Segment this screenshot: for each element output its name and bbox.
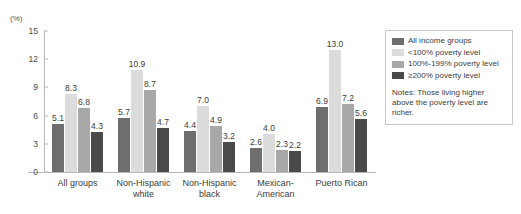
bar-value-label: 13.0 — [327, 40, 344, 49]
bar-value-label: 2.6 — [250, 138, 262, 147]
bar — [342, 104, 354, 172]
bar — [144, 90, 156, 172]
bar-column: 5.1 — [52, 31, 64, 172]
bar-column: 7.0 — [197, 31, 209, 172]
legend-label: All income groups — [408, 36, 472, 46]
bar — [197, 106, 209, 172]
bar-value-label: 6.8 — [78, 98, 90, 107]
legend-note: Notes: Those living higher above the pov… — [392, 88, 506, 118]
bar — [316, 107, 328, 172]
bar-value-label: 2.3 — [276, 140, 288, 149]
bar-value-label: 10.9 — [129, 60, 146, 69]
y-tick-label: 12 — [0, 54, 44, 64]
bar-group: 2.64.02.32.2 — [250, 31, 302, 172]
plot-area: 5.18.36.84.35.710.98.74.74.47.04.93.22.6… — [44, 31, 374, 172]
bar-value-label: 4.7 — [157, 118, 169, 127]
legend-items: All income groups<100% poverty level100%… — [392, 36, 506, 81]
legend-item: 100%-199% poverty level — [392, 59, 506, 69]
y-tick-label: 15 — [0, 26, 44, 36]
bar-group: 4.47.04.93.2 — [184, 31, 236, 172]
bar-column: 5.7 — [118, 31, 130, 172]
bar-value-label: 2.2 — [289, 141, 301, 150]
bar-column: 3.2 — [223, 31, 235, 172]
legend-swatch — [392, 72, 404, 79]
legend-item: ≥200% poverty level — [392, 71, 506, 81]
bar-value-label: 5.6 — [355, 109, 367, 118]
bar — [276, 150, 288, 172]
y-tick-label: 3 — [0, 139, 44, 149]
bar-column: 10.9 — [131, 31, 143, 172]
legend-swatch — [392, 49, 404, 56]
y-tick-label: 6 — [0, 111, 44, 121]
bar-value-label: 8.3 — [65, 84, 77, 93]
bar — [52, 124, 64, 172]
bar-value-label: 7.2 — [342, 94, 354, 103]
bar-column: 5.6 — [355, 31, 367, 172]
bar-column: 6.8 — [78, 31, 90, 172]
bar-column: 6.9 — [316, 31, 328, 172]
bar — [65, 94, 77, 172]
bar — [78, 108, 90, 172]
bar — [157, 128, 169, 172]
bar — [131, 70, 143, 172]
bar-column: 4.3 — [91, 31, 103, 172]
bar-value-label: 5.7 — [118, 108, 130, 117]
bar-value-label: 4.4 — [184, 121, 196, 130]
y-tick-label: 0 — [0, 167, 44, 177]
legend-swatch — [392, 38, 404, 45]
bar — [184, 131, 196, 172]
bar-column: 2.6 — [250, 31, 262, 172]
bar-value-label: 3.2 — [223, 132, 235, 141]
bar-value-label: 8.7 — [144, 80, 156, 89]
bar-group: 6.913.07.25.6 — [316, 31, 368, 172]
legend-item: <100% poverty level — [392, 48, 506, 58]
bar-column: 8.7 — [144, 31, 156, 172]
x-axis-line — [28, 172, 376, 173]
bar-group: 5.710.98.74.7 — [118, 31, 170, 172]
legend-label: <100% poverty level — [408, 48, 480, 58]
bar-value-label: 4.0 — [263, 124, 275, 133]
bar-value-label: 6.9 — [316, 97, 328, 106]
bar-column: 4.4 — [184, 31, 196, 172]
bar — [223, 142, 235, 172]
legend-label: 100%-199% poverty level — [408, 59, 499, 69]
legend-swatch — [392, 61, 404, 68]
bar-group: 5.18.36.84.3 — [52, 31, 104, 172]
bar — [263, 134, 275, 172]
bar-value-label: 5.1 — [52, 114, 64, 123]
bar-column: 8.3 — [65, 31, 77, 172]
bar-column: 4.7 — [157, 31, 169, 172]
legend-label: ≥200% poverty level — [408, 71, 480, 81]
poverty-level-bar-chart: (%) 03691215 5.18.36.84.35.710.98.74.74.… — [0, 0, 521, 214]
bar-value-label: 4.9 — [210, 116, 222, 125]
bar — [250, 148, 262, 172]
bar — [210, 126, 222, 172]
legend: All income groups<100% poverty level100%… — [385, 30, 513, 125]
legend-item: All income groups — [392, 36, 506, 46]
bar-column: 13.0 — [329, 31, 341, 172]
bar-column: 4.0 — [263, 31, 275, 172]
bar-column: 4.9 — [210, 31, 222, 172]
bar — [91, 132, 103, 172]
bar — [118, 118, 130, 172]
bar — [329, 50, 341, 172]
bar-value-label: 7.0 — [197, 96, 209, 105]
bar — [289, 151, 301, 172]
bar — [355, 119, 367, 172]
y-axis-unit-label: (%) — [10, 14, 22, 23]
bar-column: 7.2 — [342, 31, 354, 172]
category-label: Puerto Rican — [302, 178, 382, 189]
y-tick-label: 9 — [0, 82, 44, 92]
bar-value-label: 4.3 — [91, 122, 103, 131]
bar-column: 2.3 — [276, 31, 288, 172]
bar-column: 2.2 — [289, 31, 301, 172]
